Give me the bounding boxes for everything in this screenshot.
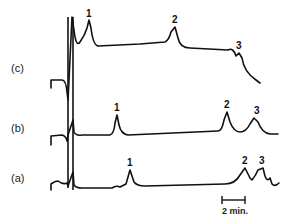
trace-a <box>51 168 279 190</box>
peak-label-b-1: 1 <box>114 102 120 113</box>
peak-label-b-3: 3 <box>254 105 260 116</box>
trace-c <box>51 17 260 100</box>
peak-label-a-1: 1 <box>127 157 133 168</box>
trace-label-b: (b) <box>11 122 24 134</box>
peak-label-c-3: 3 <box>236 40 242 51</box>
peak-label-a-3: 3 <box>259 155 265 166</box>
peak-label-a-2: 2 <box>242 155 248 166</box>
peak-label-c-1: 1 <box>86 8 92 19</box>
scale-bar: 2 min. <box>222 196 248 216</box>
scale-bar-label: 2 min. <box>222 206 248 216</box>
peak-label-b-2: 2 <box>224 99 230 110</box>
chromatogram-figure: (c) (b) (a) 1 2 3 1 2 3 1 2 3 2 min. <box>0 0 294 224</box>
trace-b <box>51 112 278 145</box>
trace-label-a: (a) <box>11 172 24 184</box>
trace-label-c: (c) <box>11 62 24 74</box>
peak-label-c-2: 2 <box>172 14 178 25</box>
